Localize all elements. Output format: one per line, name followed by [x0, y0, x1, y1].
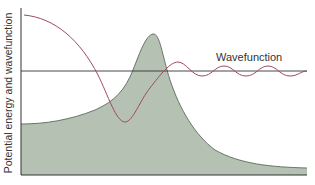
wavefunction-label: Wavefunction — [216, 51, 282, 63]
y-axis-label: Potential energy and wavefunction — [1, 8, 15, 178]
diagram-canvas — [0, 0, 315, 185]
